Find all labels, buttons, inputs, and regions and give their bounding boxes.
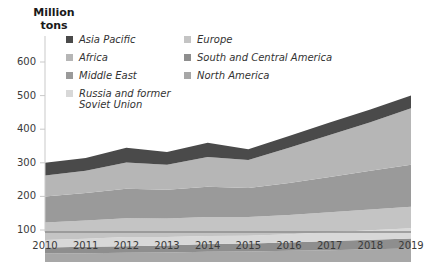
x-tick-label: 2013	[150, 240, 184, 251]
y-tick-label: 100	[8, 224, 36, 235]
y-tick-label: 400	[8, 123, 36, 134]
x-tick-label: 2015	[231, 240, 265, 251]
x-tick-label: 2011	[69, 240, 103, 251]
y-tick-label: 500	[8, 90, 36, 101]
x-tick-label: 2012	[109, 240, 143, 251]
x-tick-label: 2017	[313, 240, 347, 251]
x-tick-label: 2019	[394, 240, 428, 251]
x-tick-label: 2014	[191, 240, 225, 251]
y-tick-label: 600	[8, 56, 36, 67]
x-tick-label: 2016	[272, 240, 306, 251]
x-tick-label: 2018	[353, 240, 387, 251]
x-tick-label: 2010	[28, 240, 62, 251]
y-tick-label: 200	[8, 190, 36, 201]
y-tick-label: 300	[8, 157, 36, 168]
